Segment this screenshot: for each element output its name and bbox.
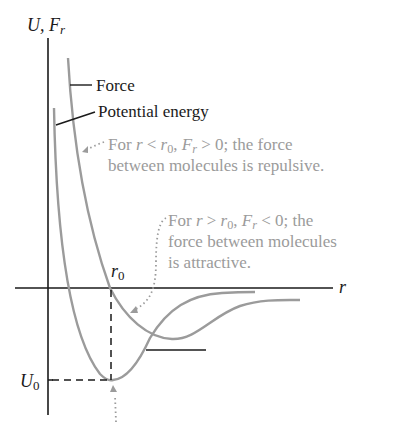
attractive-arrowhead-icon [130, 306, 138, 313]
y-label-U: U, [27, 15, 45, 35]
minimum-dotted-arrow [115, 395, 116, 422]
repulsive-line2: between molecules is repulsive. [108, 155, 324, 176]
x-label-r: r [339, 277, 346, 297]
attractive-line1: For r > r0, Fr < 0; the [168, 210, 337, 231]
x-axis-label: r [339, 278, 346, 296]
text: F [182, 135, 192, 154]
text: > 0; the force [197, 135, 293, 154]
text: r [196, 211, 203, 230]
text: , [233, 211, 242, 230]
y-label-F-sub: r [60, 22, 65, 37]
repulsive-arrowhead-icon [82, 146, 88, 153]
y-label-F: F [49, 15, 60, 35]
U0-sub: 0 [33, 378, 39, 393]
repulsive-annotation: For r < r0, Fr > 0; the force between mo… [108, 134, 324, 176]
potential-leader-line [56, 112, 95, 125]
text: , [173, 135, 182, 154]
r0-label: r0 [111, 262, 125, 280]
text: F [242, 211, 252, 230]
potential-energy-label: Potential energy [98, 103, 209, 120]
r0-sub: 0 [118, 268, 124, 283]
text: r [136, 135, 143, 154]
U0-main: U [20, 371, 33, 391]
attractive-annotation: For r > r0, Fr < 0; the force between mo… [168, 210, 337, 273]
r0-main: r [111, 261, 118, 281]
U0-label: U0 [20, 372, 39, 390]
text: < 0; the [257, 211, 313, 230]
minimum-arrowhead-icon [110, 385, 117, 392]
force-curve [68, 58, 300, 339]
repulsive-line1: For r < r0, Fr > 0; the force [108, 134, 324, 155]
repulsive-dotted-arrow [86, 142, 104, 150]
text: < [143, 135, 161, 154]
attractive-line3: is attractive. [168, 252, 337, 273]
attractive-dotted-arrow [134, 218, 166, 310]
text: > [203, 211, 221, 230]
text: For [108, 135, 136, 154]
force-label: Force [96, 77, 135, 94]
attractive-line2: force between molecules [168, 231, 337, 252]
text: For [168, 211, 196, 230]
y-axis-label: U, Fr [27, 16, 65, 34]
